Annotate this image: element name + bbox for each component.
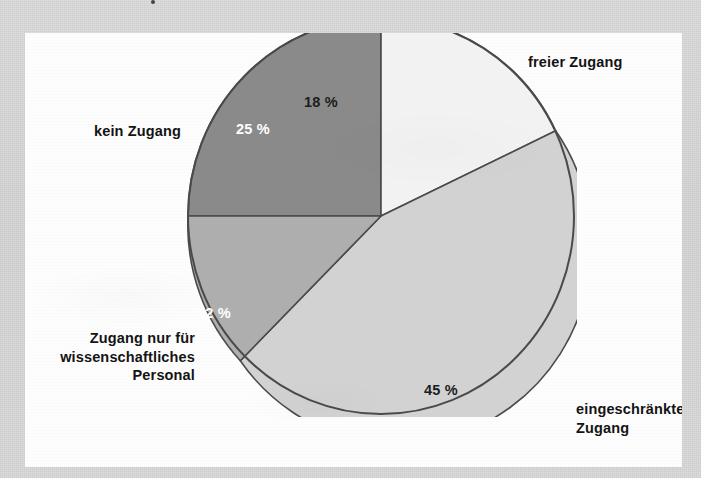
pie-svg (185, 33, 577, 417)
cropped-heading-ink-mark (151, 0, 155, 4)
category-label-eingeschraenkter-zugang: eingeschränkter Zugang (576, 400, 682, 437)
slice-value-eingeschraenkter-zugang: 45 % (424, 382, 458, 399)
category-label-freier-zugang: freier Zugang (528, 53, 623, 72)
slice-value-freier-zugang: 18 % (304, 94, 338, 111)
slice-value-kein-zugang: 25 % (236, 121, 270, 138)
category-label-kein-zugang: kein Zugang (94, 122, 181, 141)
pie-slice-kein-zugang (188, 33, 381, 216)
pie-chart-figure: 18 % 25 % 12 % 45 % freier Zugang kein Z… (0, 0, 701, 478)
pie-graphic (185, 33, 577, 417)
chart-panel: 18 % 25 % 12 % 45 % freier Zugang kein Z… (25, 33, 682, 467)
slice-value-wissenschaftliches-personal: 12 % (197, 305, 231, 322)
category-label-wissenschaftliches-personal: Zugang nur für wissenschaftliches Person… (43, 329, 195, 385)
